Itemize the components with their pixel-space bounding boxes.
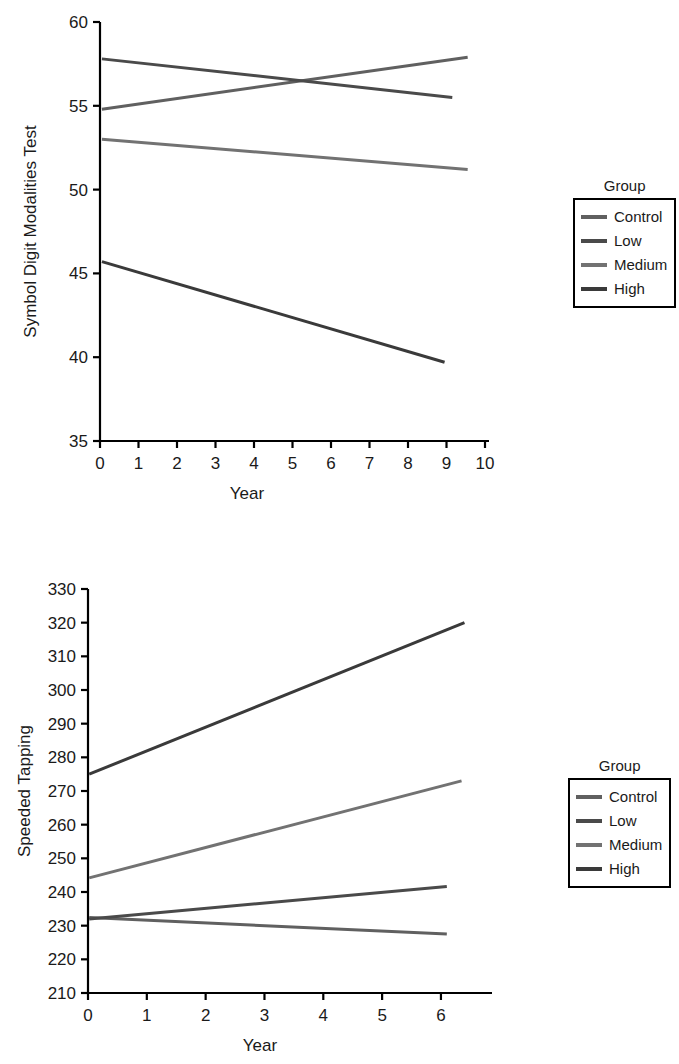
y-tick-label: 260 <box>48 816 76 835</box>
y-tick-label: 45 <box>69 264 88 283</box>
legend-swatch-low <box>576 819 602 823</box>
x-tick-label: 0 <box>95 454 104 473</box>
series-line-high <box>89 623 464 775</box>
legend-speeded-tapping: Group Control Low Medium High <box>568 757 671 888</box>
y-tick-label: 330 <box>48 580 76 599</box>
y-tick-label: 290 <box>48 715 76 734</box>
y-axis-label: Symbol Digit Modalities Test <box>21 125 40 338</box>
legend-title: Group <box>573 177 676 195</box>
y-tick-label: 210 <box>48 984 76 1003</box>
legend-item-low[interactable]: Low <box>581 229 667 253</box>
legend-box: Control Low Medium High <box>573 198 676 308</box>
x-tick-label: 0 <box>83 1006 92 1025</box>
legend-label-high: High <box>614 281 645 297</box>
x-tick-label: 2 <box>201 1006 210 1025</box>
legend-label-medium: Medium <box>614 257 667 273</box>
legend-box: Control Low Medium High <box>568 778 671 888</box>
y-tick-label: 270 <box>48 782 76 801</box>
y-tick-label: 320 <box>48 614 76 633</box>
y-tick-label: 60 <box>69 13 88 32</box>
series-line-low <box>89 887 447 919</box>
chart-panel-speeded-tapping: 2102202302402502602702802903003103203300… <box>0 544 679 1064</box>
x-tick-label: 3 <box>260 1006 269 1025</box>
y-tick-label: 300 <box>48 681 76 700</box>
x-tick-label: 2 <box>172 454 181 473</box>
x-tick-label: 7 <box>365 454 374 473</box>
y-tick-label: 40 <box>69 348 88 367</box>
y-tick-label: 310 <box>48 647 76 666</box>
y-tick-label: 230 <box>48 917 76 936</box>
legend-label-low: Low <box>614 233 642 249</box>
y-tick-label: 35 <box>69 432 88 451</box>
legend-item-control[interactable]: Control <box>581 205 667 229</box>
y-tick-label: 50 <box>69 181 88 200</box>
y-axis-label: Speeded Tapping <box>15 725 34 857</box>
legend-label-high: High <box>609 861 640 877</box>
series-line-control <box>89 918 447 934</box>
legend-item-medium[interactable]: Medium <box>576 833 662 857</box>
y-tick-label: 55 <box>69 97 88 116</box>
y-tick-label: 280 <box>48 748 76 767</box>
y-tick-label: 220 <box>48 950 76 969</box>
legend-item-control[interactable]: Control <box>576 785 662 809</box>
x-axis-label: Year <box>243 1036 278 1055</box>
series-line-medium <box>102 139 468 169</box>
legend-label-control: Control <box>609 789 657 805</box>
x-tick-label: 1 <box>134 454 143 473</box>
legend-swatch-medium <box>581 263 607 267</box>
legend-title: Group <box>568 757 671 775</box>
y-tick-label: 250 <box>48 849 76 868</box>
legend-swatch-control <box>576 795 602 799</box>
x-tick-label: 5 <box>288 454 297 473</box>
x-tick-label: 4 <box>249 454 258 473</box>
legend-item-high[interactable]: High <box>581 277 667 301</box>
legend-symbol-digit: Group Control Low Medium High <box>573 177 676 308</box>
x-tick-label: 9 <box>442 454 451 473</box>
x-tick-label: 10 <box>476 454 495 473</box>
series-line-low <box>102 59 452 98</box>
chart-panel-symbol-digit: 354045505560012345678910YearSymbol Digit… <box>0 0 679 520</box>
legend-label-medium: Medium <box>609 837 662 853</box>
series-line-medium <box>89 781 461 878</box>
legend-item-low[interactable]: Low <box>576 809 662 833</box>
series-line-high <box>102 262 445 363</box>
legend-label-low: Low <box>609 813 637 829</box>
legend-swatch-high <box>581 287 607 291</box>
legend-item-medium[interactable]: Medium <box>581 253 667 277</box>
legend-label-control: Control <box>614 209 662 225</box>
legend-swatch-low <box>581 239 607 243</box>
x-tick-label: 5 <box>377 1006 386 1025</box>
x-tick-label: 6 <box>326 454 335 473</box>
x-tick-label: 8 <box>403 454 412 473</box>
legend-swatch-control <box>581 215 607 219</box>
x-tick-label: 3 <box>211 454 220 473</box>
legend-swatch-high <box>576 867 602 871</box>
x-tick-label: 1 <box>142 1006 151 1025</box>
x-tick-label: 6 <box>436 1006 445 1025</box>
x-tick-label: 4 <box>319 1006 328 1025</box>
y-tick-label: 240 <box>48 883 76 902</box>
legend-item-high[interactable]: High <box>576 857 662 881</box>
x-axis-label: Year <box>230 484 265 503</box>
legend-swatch-medium <box>576 843 602 847</box>
